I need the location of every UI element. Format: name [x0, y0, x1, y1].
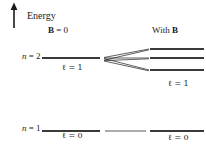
b-field-symbol-right: B — [172, 25, 178, 35]
splitting-connector-lines-n2 — [104, 49, 149, 71]
orbital-label-n1-right: ℓ = 0 — [168, 134, 189, 142]
b-field-symbol-left: B — [48, 25, 54, 35]
energy-level-diagram: Energy B = 0 With B n = 2 ℓ = 1 ℓ = 1 n … — [0, 0, 206, 156]
quantum-number-n-symbol-n1: n — [22, 123, 27, 133]
with-b-prefix: With — [152, 25, 172, 35]
energy-arrow — [11, 3, 18, 29]
column-header-b-zero: B = 0 — [48, 26, 68, 35]
orbital-label-n2-right: ℓ = 1 — [168, 80, 189, 88]
column-header-with-b: With B — [152, 26, 178, 35]
quantum-number-n-value-n2: = 2 — [29, 51, 41, 61]
quantum-number-n-value-n1: = 1 — [29, 123, 41, 133]
level-label-n1: n = 1 — [22, 124, 41, 133]
b-field-value-left: = 0 — [56, 25, 68, 35]
quantum-number-n-symbol-n2: n — [22, 51, 27, 61]
orbital-label-n2-left: ℓ = 1 — [62, 64, 83, 72]
level-label-n2: n = 2 — [22, 52, 41, 61]
energy-axis-label: Energy — [27, 11, 56, 21]
orbital-label-n1-left: ℓ = 0 — [62, 132, 83, 140]
